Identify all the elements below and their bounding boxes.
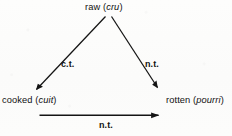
arrow-layer (0, 0, 232, 136)
node-label-raw-paren-close: ) (119, 2, 122, 12)
edge-raw-to-rotten (112, 17, 158, 88)
node-label-cooked-foreign: cuit (38, 95, 53, 105)
node-label-raw: raw (cru) (85, 2, 123, 13)
node-label-raw-english: raw (85, 2, 100, 12)
edge-label-cooked-to-rotten: n.t. (99, 120, 113, 130)
node-label-raw-foreign: cru (106, 2, 119, 12)
edge-label-raw-to-cooked: c.t. (61, 59, 74, 69)
edge-label-raw-to-rotten: n.t. (145, 59, 159, 69)
node-label-rotten: rotten (pourri) (166, 95, 224, 106)
node-label-rotten-english: rotten (166, 95, 190, 105)
node-label-cooked: cooked (cuit) (2, 95, 57, 106)
node-label-rotten-foreign: pourri (196, 95, 220, 105)
culinary-triangle-figure: raw (cru) cooked (cuit) rotten (pourri) … (0, 0, 232, 136)
node-label-cooked-english: cooked (2, 95, 33, 105)
node-label-rotten-paren-close: ) (221, 95, 224, 105)
node-label-cooked-paren-close: ) (53, 95, 56, 105)
edge-raw-to-cooked (37, 17, 106, 90)
